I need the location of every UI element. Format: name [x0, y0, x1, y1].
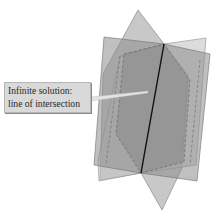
callout-line-2: line of intersection: [8, 98, 87, 111]
callout-label: Infinite solution: line of intersection: [4, 82, 91, 113]
callout-line-1: Infinite solution:: [8, 85, 87, 98]
